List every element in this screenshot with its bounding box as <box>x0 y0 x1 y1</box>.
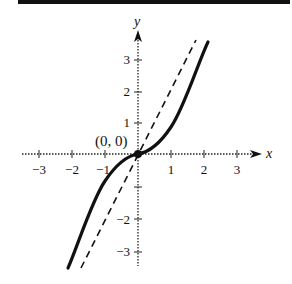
graph: −3 −2 −1 1 2 3 3 2 1 −2 −3 x y (0, 0) <box>0 0 292 284</box>
origin-point-marker <box>134 150 142 158</box>
x-tick-label: 2 <box>201 162 208 177</box>
x-tick-label: −3 <box>32 162 46 177</box>
y-tick-label: −3 <box>116 244 130 259</box>
y-tick-label: −2 <box>116 212 130 227</box>
origin-point-label: (0, 0) <box>95 133 128 150</box>
y-axis-label: y <box>132 14 141 29</box>
y-tick-label: 3 <box>124 52 131 67</box>
y-tick-label: 2 <box>124 84 131 99</box>
x-tick-label: −2 <box>65 162 79 177</box>
x-axis-label: x <box>265 146 273 161</box>
x-tick-label: 1 <box>168 162 175 177</box>
x-tick-label: 3 <box>234 162 241 177</box>
x-axis-arrow-icon <box>250 150 262 158</box>
y-tick-label: 1 <box>124 115 131 130</box>
